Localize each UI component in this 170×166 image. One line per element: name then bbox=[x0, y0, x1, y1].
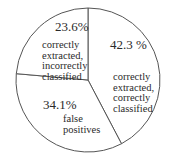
slice-1-line-1: correctly bbox=[113, 72, 154, 83]
slice-1-line-3: correctly bbox=[113, 93, 154, 104]
slice-1-line-4: classified bbox=[113, 104, 154, 115]
slice-3-line-1: correctly bbox=[42, 40, 87, 51]
slice-3-description: correctly extracted, incorrectly classif… bbox=[42, 40, 87, 82]
slice-2-description: false positives bbox=[63, 114, 100, 135]
slice-1-description: correctly extracted, correctly classifie… bbox=[113, 72, 154, 114]
slice-2-percent: 34.1% bbox=[43, 98, 77, 111]
slice-3-line-3: incorrectly bbox=[42, 61, 87, 72]
slice-1-percent: 42.3 % bbox=[110, 38, 147, 51]
slice-3-percent: 23.6% bbox=[55, 20, 89, 33]
slice-2-line-2: positives bbox=[63, 125, 100, 136]
slice-3-line-4: classified bbox=[42, 72, 87, 83]
slice-2-line-1: false bbox=[63, 114, 100, 125]
